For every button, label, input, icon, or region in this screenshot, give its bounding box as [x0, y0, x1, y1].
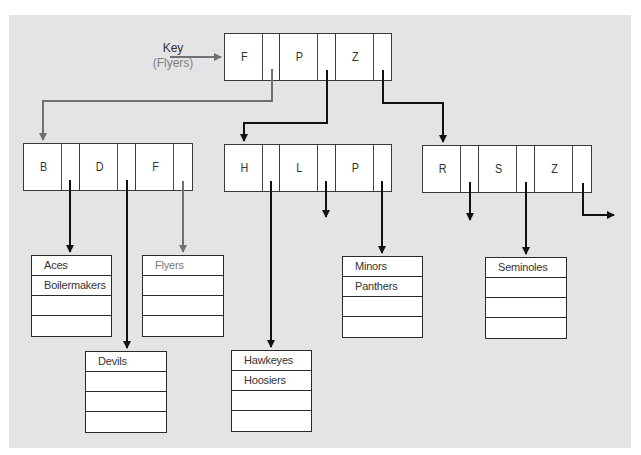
right-key-r: R — [425, 146, 461, 192]
leaf-block-aces: Aces Boilermakers — [31, 255, 112, 337]
leaf-block-minors: Minors Panthers — [342, 256, 423, 338]
leaf-row — [486, 318, 566, 338]
middle-pointer-1 — [265, 145, 281, 191]
leaf-row: Hoosiers — [232, 371, 311, 391]
leaf-row: Panthers — [343, 277, 422, 297]
leaf-row — [343, 297, 422, 317]
middle-key-p: P — [338, 145, 374, 191]
left-pointer-3 — [176, 144, 192, 190]
left-pointer-1 — [64, 144, 80, 190]
leaf-row — [86, 392, 166, 412]
leaf-block-devils: Devils — [85, 351, 167, 433]
left-key-f: F — [138, 144, 174, 190]
leaf-block-hawkeyes: Hawkeyes Hoosiers — [231, 350, 312, 432]
leaf-row: Devils — [86, 352, 166, 372]
leaf-row — [143, 316, 223, 336]
leaf-block-seminoles: Seminoles — [485, 257, 567, 339]
leaf-row-target: Flyers — [143, 256, 223, 276]
leaf-row — [232, 391, 311, 411]
left-key-b: B — [26, 144, 62, 190]
root-pointer-3 — [375, 34, 391, 80]
key-value: (Flyers) — [148, 56, 198, 71]
root-node: F P Z — [224, 33, 392, 81]
left-pointer-2 — [120, 144, 136, 190]
key-title: Key — [148, 41, 198, 56]
right-pointer-2 — [519, 146, 535, 192]
internal-node-middle: H L P — [224, 144, 392, 192]
leaf-row — [86, 412, 166, 432]
left-key-d: D — [82, 144, 118, 190]
leaf-row: Hawkeyes — [232, 351, 311, 371]
leaf-row — [232, 411, 311, 431]
leaf-block-flyers: Flyers — [142, 255, 224, 337]
internal-node-left: B D F — [23, 143, 193, 191]
root-pointer-1 — [265, 34, 281, 80]
root-key-p: P — [282, 34, 318, 80]
right-key-z: Z — [537, 146, 573, 192]
root-key-z: Z — [338, 34, 374, 80]
leaf-row: Boilermakers — [32, 276, 111, 296]
root-key-f: F — [227, 34, 263, 80]
leaf-row — [143, 276, 223, 296]
right-pointer-1 — [463, 146, 479, 192]
middle-pointer-3 — [375, 145, 391, 191]
right-pointer-3 — [575, 146, 591, 192]
leaf-row — [143, 296, 223, 316]
leaf-row — [486, 278, 566, 298]
leaf-row — [86, 372, 166, 392]
internal-node-right: R S Z — [422, 145, 592, 193]
middle-key-l: L — [282, 145, 318, 191]
leaf-row: Minors — [343, 257, 422, 277]
leaf-row: Seminoles — [486, 258, 566, 278]
middle-key-h: H — [227, 145, 263, 191]
middle-pointer-2 — [320, 145, 336, 191]
right-key-s: S — [481, 146, 517, 192]
root-pointer-2 — [320, 34, 336, 80]
leaf-row — [32, 316, 111, 336]
leaf-row: Aces — [32, 256, 111, 276]
leaf-row — [486, 298, 566, 318]
leaf-row — [343, 317, 422, 337]
leaf-row — [32, 296, 111, 316]
search-key-label: Key (Flyers) — [148, 41, 198, 71]
